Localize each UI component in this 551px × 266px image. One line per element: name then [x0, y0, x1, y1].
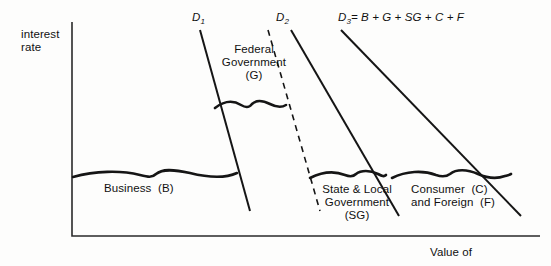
curve-label-d2: D2	[276, 11, 289, 28]
brace-consumer-foreign	[392, 170, 511, 178]
curve-label-d1: D1	[192, 11, 205, 28]
y-axis-label: interest rate	[21, 28, 60, 54]
segment-label-consumer-foreign: Consumer (C) and Foreign (F)	[411, 183, 523, 209]
curve-label-d3: D3= B + G + SG + C + F	[338, 11, 464, 28]
segment-label-business: Business (B)	[104, 182, 174, 195]
segment-label-federal-government: Federal Government (G)	[206, 43, 302, 82]
loanable-funds-demand-figure: interest rate Value of D1 D2 D3= B + G +…	[0, 0, 551, 266]
brace-federal-government	[215, 101, 286, 108]
segment-label-state-local-government: State & Local Government (SG)	[312, 183, 402, 222]
figure-canvas	[0, 0, 551, 266]
brace-business	[73, 170, 237, 177]
curve-label-d1-subscript: 1	[200, 17, 205, 26]
curve-label-d2-subscript: 2	[284, 17, 289, 26]
x-axis-label: Value of	[430, 246, 472, 259]
curve-label-d3-equation: = B + G + SG + C + F	[351, 11, 464, 23]
